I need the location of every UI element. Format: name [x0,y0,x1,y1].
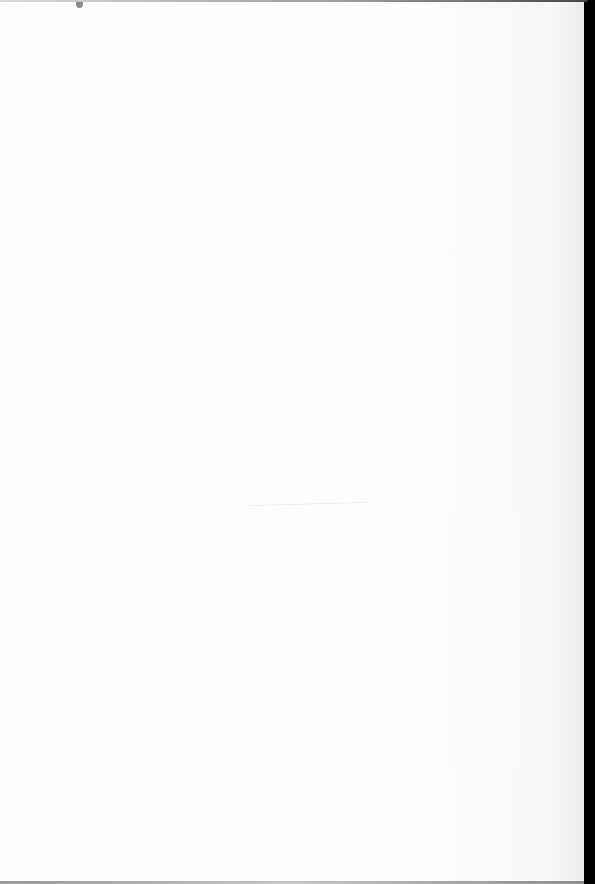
page-top-edge [0,0,595,2]
scan-scratch [250,502,370,506]
scanner-border-right [584,0,595,884]
scanner-border-corner [587,0,595,18]
blank-page [0,0,584,884]
scanned-document [0,0,595,884]
